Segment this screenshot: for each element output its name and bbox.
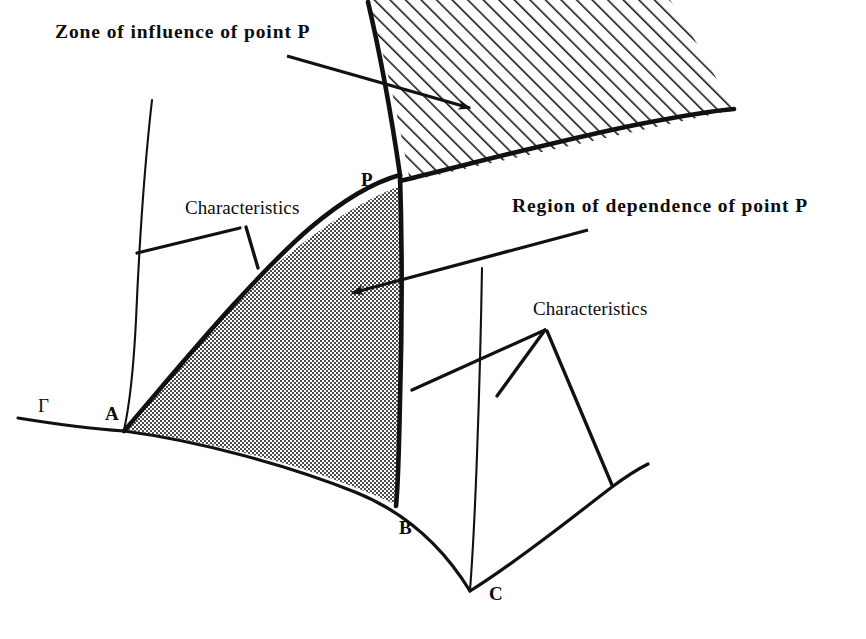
caption-zone-of-influence: Zone of influence of point P xyxy=(55,22,310,42)
caption-characteristics-left: Characteristics xyxy=(185,198,299,217)
caption-characteristics-right: Characteristics xyxy=(533,299,647,318)
point-label-P: P xyxy=(361,170,373,189)
point-label-B: B xyxy=(399,518,412,537)
point-label-A: A xyxy=(105,404,119,423)
characteristics-diagram xyxy=(0,0,866,639)
point-label-C: C xyxy=(489,584,503,603)
diagram-canvas: Zone of influence of point P Region of d… xyxy=(0,0,866,639)
boundary-label-gamma: Γ xyxy=(38,396,49,415)
caption-region-of-dependence: Region of dependence of point P xyxy=(512,196,808,216)
